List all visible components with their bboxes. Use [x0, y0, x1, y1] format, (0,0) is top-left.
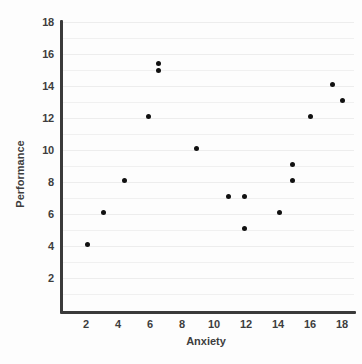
gridline-y-14	[62, 86, 354, 87]
y-tick-label-4: 4	[0, 240, 54, 252]
gridline-y-10	[62, 150, 354, 151]
x-tick-label-6: 6	[147, 318, 153, 330]
gridline-y-9	[62, 166, 354, 167]
x-tick-label-18: 18	[336, 318, 348, 330]
gridline-y-15	[62, 70, 354, 71]
x-axis-line	[60, 311, 356, 314]
y-tick-label-8: 8	[0, 176, 54, 188]
gridline-y-17	[62, 38, 354, 39]
y-tick-label-18: 18	[0, 16, 54, 28]
gridline-y-7	[62, 198, 354, 199]
gridline-y-16	[62, 54, 354, 55]
gridline-y-3	[62, 262, 354, 263]
gridline-y-18	[62, 22, 354, 23]
y-tick-label-12: 12	[0, 112, 54, 124]
x-tick-label-10: 10	[208, 318, 220, 330]
data-point	[290, 178, 295, 183]
gridline-y-4	[62, 246, 354, 247]
data-point	[146, 114, 151, 119]
data-point	[277, 210, 282, 215]
gridline-y-5	[62, 230, 354, 231]
data-point	[156, 61, 161, 66]
gridline-y-13	[62, 102, 354, 103]
x-tick-label-8: 8	[179, 318, 185, 330]
data-point	[194, 146, 199, 151]
data-point	[330, 82, 335, 87]
y-tick-label-14: 14	[0, 80, 54, 92]
gridline-y-11	[62, 134, 354, 135]
data-point	[122, 178, 127, 183]
gridline-y-2	[62, 278, 354, 279]
data-point	[242, 194, 247, 199]
data-point	[226, 194, 231, 199]
gridline-y-8	[62, 182, 354, 183]
data-point	[85, 242, 90, 247]
data-point	[308, 114, 313, 119]
data-point	[290, 162, 295, 167]
y-axis-title: Performance	[14, 114, 26, 234]
y-tick-label-16: 16	[0, 48, 54, 60]
y-tick-label-10: 10	[0, 144, 54, 156]
x-tick-label-4: 4	[115, 318, 121, 330]
data-point	[340, 98, 345, 103]
gridline-y-6	[62, 214, 354, 215]
data-point	[101, 210, 106, 215]
plot-area	[62, 22, 354, 312]
y-axis-line	[60, 20, 63, 313]
x-tick-label-12: 12	[240, 318, 252, 330]
y-tick-label-6: 6	[0, 208, 54, 220]
x-tick-label-16: 16	[304, 318, 316, 330]
x-axis-title: Anxiety	[0, 335, 362, 347]
x-tick-label-2: 2	[83, 318, 89, 330]
x-tick-label-14: 14	[272, 318, 284, 330]
data-point	[156, 68, 161, 73]
y-tick-label-2: 2	[0, 272, 54, 284]
scatter-chart: 24681012141618 24681012141618 Anxiety Pe…	[0, 0, 362, 364]
gridline-y-1	[62, 294, 354, 295]
data-point	[242, 226, 247, 231]
